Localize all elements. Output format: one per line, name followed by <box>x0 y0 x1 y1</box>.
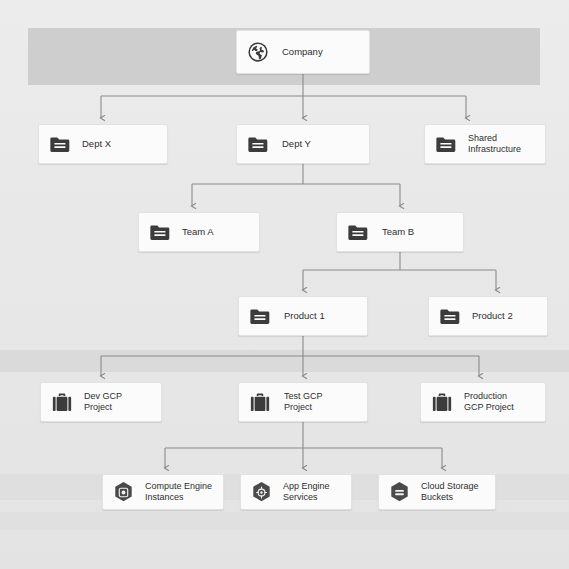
folder-icon <box>439 307 461 326</box>
node-label: Company <box>282 46 323 58</box>
compute-engine-hexagon-icon <box>113 481 134 504</box>
folder-icon <box>49 135 71 154</box>
folder-icon <box>247 135 269 154</box>
node-production-gcp-project[interactable]: Production GCP Project <box>420 382 546 422</box>
folder-icon <box>347 223 369 242</box>
folder-icon <box>249 307 271 326</box>
node-label: Dept X <box>82 138 111 150</box>
node-team-b[interactable]: Team B <box>336 212 464 252</box>
node-label: Production GCP Project <box>464 391 514 413</box>
node-label: Compute Engine Instances <box>145 481 212 503</box>
node-compute-engine-instances[interactable]: Compute Engine Instances <box>102 474 224 510</box>
node-dept-y[interactable]: Dept Y <box>236 124 370 164</box>
node-label: Dept Y <box>282 138 311 150</box>
globe-icon <box>247 41 269 63</box>
node-team-a[interactable]: Team A <box>138 212 260 252</box>
node-test-gcp-project[interactable]: Test GCP Project <box>238 382 368 422</box>
node-label: App Engine Services <box>283 481 330 503</box>
node-label: Product 2 <box>472 310 513 322</box>
cloud-storage-hexagon-icon <box>389 481 410 504</box>
node-label: Team A <box>182 226 214 238</box>
node-product-2[interactable]: Product 2 <box>428 296 548 336</box>
node-dept-x[interactable]: Dept X <box>38 124 168 164</box>
node-shared-infrastructure[interactable]: Shared Infrastructure <box>424 124 546 164</box>
diagram-canvas: Company Dept X Dept Y <box>0 0 569 569</box>
node-label: Shared Infrastructure <box>468 133 521 155</box>
node-product-1[interactable]: Product 1 <box>238 296 368 336</box>
node-cloud-storage-buckets[interactable]: Cloud Storage Buckets <box>378 474 496 510</box>
app-engine-hexagon-icon <box>251 481 272 504</box>
briefcase-icon <box>431 392 453 413</box>
node-dev-gcp-project[interactable]: Dev GCP Project <box>40 382 162 422</box>
folder-icon <box>149 223 171 242</box>
node-label: Cloud Storage Buckets <box>421 481 479 503</box>
node-label: Product 1 <box>284 310 325 322</box>
node-company[interactable]: Company <box>236 30 370 74</box>
node-label: Test GCP Project <box>284 391 323 413</box>
node-label: Team B <box>382 226 414 238</box>
briefcase-icon <box>249 392 271 413</box>
folder-icon <box>435 135 457 154</box>
node-label: Dev GCP Project <box>84 391 122 413</box>
node-app-engine-services[interactable]: App Engine Services <box>240 474 352 510</box>
briefcase-icon <box>51 392 73 413</box>
